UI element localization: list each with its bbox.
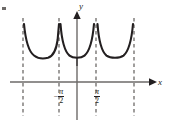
x-axis-arrowhead xyxy=(149,78,157,86)
tick-label-positive-pi-over-2: π 2 xyxy=(87,88,107,106)
secant-curve-group xyxy=(24,24,133,58)
fraction-denominator: 2 xyxy=(58,97,64,105)
fraction-denominator: 2 xyxy=(94,97,100,105)
fraction-pi-over-2: π 2 xyxy=(94,88,100,106)
x-axis-label: x xyxy=(158,78,162,87)
secant-branch-right xyxy=(98,24,134,58)
secant-branch-left xyxy=(24,24,59,58)
y-axis-arrowhead xyxy=(73,11,80,19)
secant-graph-figure: x y − π 2 π 2 xyxy=(0,0,171,128)
plot-canvas xyxy=(0,0,171,128)
tick-label-negative-pi-over-2: − π 2 xyxy=(47,88,71,106)
y-axis-label: y xyxy=(79,2,83,11)
fraction-pi-over-2: π 2 xyxy=(58,88,64,106)
asymptote-group xyxy=(23,18,134,116)
